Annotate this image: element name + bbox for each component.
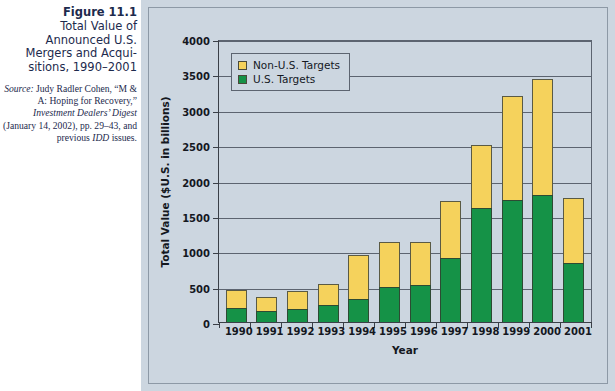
bar-segment-us-targets[interactable] [318,305,339,322]
bar-group[interactable] [502,41,523,322]
bar-segment-non-us-targets[interactable] [471,145,492,208]
y-axis-tick-label: 2000 [182,177,210,188]
y-axis-tick-label: 3000 [182,106,210,117]
chart-frame: Total Value ($U.S. in billions) 05001000… [148,7,608,384]
bar-group[interactable] [410,41,431,322]
bar-segment-us-targets[interactable] [379,287,400,322]
bar-segment-us-targets[interactable] [348,299,369,322]
bar-segment-non-us-targets[interactable] [502,96,523,200]
bar-segment-us-targets[interactable] [440,258,461,322]
y-axis-tick-label: 3500 [182,71,210,82]
bar-group[interactable] [563,41,584,322]
x-axis-tick-label: 1991 [256,326,277,337]
legend-item-label: U.S. Targets [253,73,315,85]
x-axis-tick-label: 1997 [441,326,462,337]
bar-segment-us-targets[interactable] [532,195,553,322]
y-axis-tick-label: 1000 [182,248,210,259]
x-axis-tick-label: 1993 [317,326,338,337]
y-axis-title-text: Total Value ($U.S. in billions) [159,96,171,267]
x-axis-tick-label: 1992 [287,326,308,337]
x-axis-tick-label: 2000 [533,326,554,337]
bar-segment-non-us-targets[interactable] [226,290,247,308]
y-axis-title: Total Value ($U.S. in billions) [157,40,173,323]
x-axis-tick-label: 1999 [502,326,523,337]
legend-item[interactable]: Non-U.S. Targets [238,59,340,71]
x-axis-title: Year [218,344,592,356]
y-axis-tick-label: 500 [189,283,210,294]
bar-segment-non-us-targets[interactable] [379,242,400,287]
source-text-1: Judy Radler Cohen, “M & A: Hoping for Re… [34,83,137,106]
bar-segment-non-us-targets[interactable] [563,198,584,262]
bar-segment-us-targets[interactable] [226,308,247,322]
bar-group[interactable] [348,41,369,322]
bar-segment-us-targets[interactable] [471,208,492,322]
legend-item[interactable]: U.S. Targets [238,73,340,85]
bar-segment-non-us-targets[interactable] [410,242,431,284]
bar-segment-us-targets[interactable] [256,311,277,322]
figure-caption-column: Figure 11.1 Total Value of Announced U.S… [0,0,141,391]
y-axis-tick-label: 2500 [182,142,210,153]
source-publication-2: IDD [92,132,109,143]
legend-swatch-icon [238,61,247,70]
y-axis-tick-label: 1500 [182,212,210,223]
legend-item-label: Non-U.S. Targets [253,59,340,71]
y-axis-tick-label: 4000 [182,36,210,47]
y-axis-tick-label: 0 [203,319,210,330]
bar-segment-non-us-targets[interactable] [348,255,369,299]
x-axis-tick-label: 1994 [348,326,369,337]
bar-segment-us-targets[interactable] [410,285,431,322]
figure-source-note: Source: Judy Radler Cohen, “M & A: Hopin… [0,74,141,144]
bar-segment-non-us-targets[interactable] [532,79,553,195]
bar-segment-us-targets[interactable] [563,263,584,322]
x-axis-tick-label: 1998 [472,326,493,337]
bar-group[interactable] [471,41,492,322]
source-text-3: issues. [109,132,137,143]
x-axis-tick-labels: 1990199119921993199419951996199719981999… [218,326,592,337]
figure-number: Figure 11.1 [0,0,141,19]
bar-group[interactable] [379,41,400,322]
chart-panel: Total Value ($U.S. in billions) 05001000… [141,0,615,391]
legend-swatch-icon [238,75,247,84]
x-axis-tick-label: 1990 [225,326,246,337]
bar-segment-non-us-targets[interactable] [287,291,308,309]
x-axis-tick-label: 2001 [564,326,585,337]
bar-segment-non-us-targets[interactable] [440,201,461,258]
bar-segment-non-us-targets[interactable] [318,284,339,305]
bar-segment-us-targets[interactable] [287,309,308,322]
figure-title: Total Value of Announced U.S. Mergers an… [0,19,141,74]
source-publication-1: Investment Dealers’ Digest [33,107,137,118]
bar-group[interactable] [440,41,461,322]
bar-group[interactable] [532,41,553,322]
chart-legend: Non-U.S. TargetsU.S. Targets [231,53,350,91]
x-axis-tick-label: 1995 [379,326,400,337]
bar-segment-non-us-targets[interactable] [256,297,277,311]
x-axis-tick-label: 1996 [410,326,431,337]
bar-segment-us-targets[interactable] [502,200,523,322]
source-label: Source: [4,83,33,94]
